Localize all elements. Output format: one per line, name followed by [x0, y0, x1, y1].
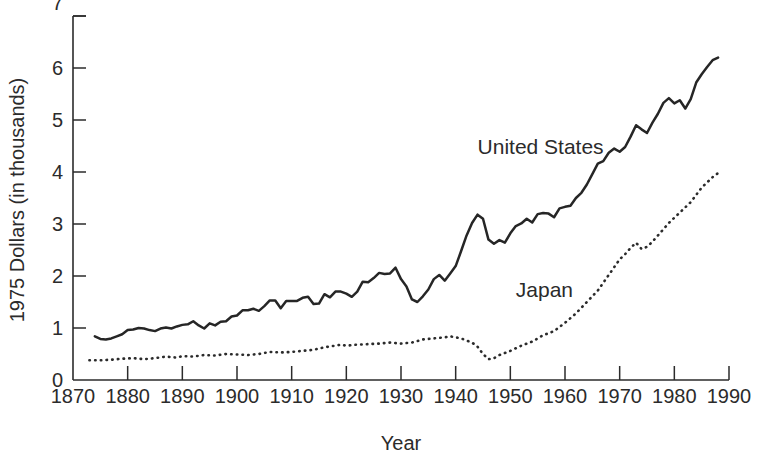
x-axis-title: Year: [381, 432, 422, 454]
x-axis-tick-label: 1940: [433, 385, 478, 407]
chart-container: 01234567 1870188018901900191019201930194…: [0, 0, 762, 458]
series-label-japan: Japan: [516, 278, 573, 301]
x-axis-tick-label: 1990: [707, 385, 752, 407]
x-axis: 1870188018901900191019201930194019501960…: [51, 16, 752, 407]
y-axis-tick-label: 3: [52, 213, 63, 235]
x-axis-tick-label: 1970: [597, 385, 642, 407]
series-label-united-states: United States: [478, 135, 604, 158]
y-axis-title: 1975 Dollars (in thousands): [6, 78, 28, 323]
y-axis-tick-label: 5: [52, 109, 63, 131]
x-axis-tick-label: 1870: [51, 385, 96, 407]
y-axis-tick-label: 2: [52, 265, 63, 287]
series-line-united-states: [95, 58, 718, 340]
x-axis-tick-label: 1900: [215, 385, 260, 407]
x-axis-tick-label: 1950: [488, 385, 533, 407]
x-axis-tick-label: 1980: [652, 385, 697, 407]
chart-plot: 01234567 1870188018901900191019201930194…: [0, 0, 762, 458]
y-axis: 01234567: [52, 0, 86, 391]
x-axis-tick-label: 1910: [269, 385, 314, 407]
series-annotations: United StatesJapan: [478, 135, 604, 301]
x-axis-tick-label: 1920: [324, 385, 369, 407]
x-axis-tick-label: 1930: [379, 385, 424, 407]
y-axis-tick-label: 6: [52, 57, 63, 79]
y-axis-tick-label: 7: [52, 0, 63, 14]
y-axis-tick-label: 4: [52, 161, 63, 183]
x-axis-tick-label: 1960: [543, 385, 588, 407]
x-axis-tick-label: 1880: [105, 385, 150, 407]
series-line-japan: [89, 173, 718, 360]
x-axis-tick-label: 1890: [160, 385, 205, 407]
series-group: [89, 58, 718, 361]
y-axis-tick-label: 1: [52, 317, 63, 339]
